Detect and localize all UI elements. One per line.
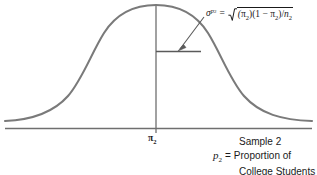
figure-caption: Sample 2 p2 = Proportion of College Stud… [213,136,315,175]
sigma-subscript-index: 2 [214,9,217,14]
radicand: (π2)(1 − π2)/n2 [237,7,293,19]
sampling-distribution-figure: σp2 = (π2)(1 − π2)/n2 π2 Sample 2 p2 = P… [0,0,317,175]
caption-p-subscript: 2 [219,156,223,164]
radicand-minus: − [262,9,267,19]
axis-tick-subscript: 2 [153,138,156,145]
caption-definition-text: Proportion of [234,150,291,163]
formula-equals: = [219,9,224,19]
sigma-symbol: σ [206,9,211,19]
axis-tick-label-pi2: π2 [148,133,156,145]
radical-expression: (π2)(1 − π2)/n2 [228,8,293,21]
radicand-one: 1 [255,9,260,19]
caption-sample-label: Sample 2 [213,136,315,149]
normal-curve [5,5,312,121]
caption-definition-line: p2 = Proportion of [213,149,315,167]
radical-sign-icon [228,8,237,21]
caption-equals: = [225,150,231,163]
radicand-n-sub: 2 [289,14,292,21]
caption-definition-text-2: College Students [213,166,315,175]
standard-error-formula: σp2 = (π2)(1 − π2)/n2 [206,8,293,21]
